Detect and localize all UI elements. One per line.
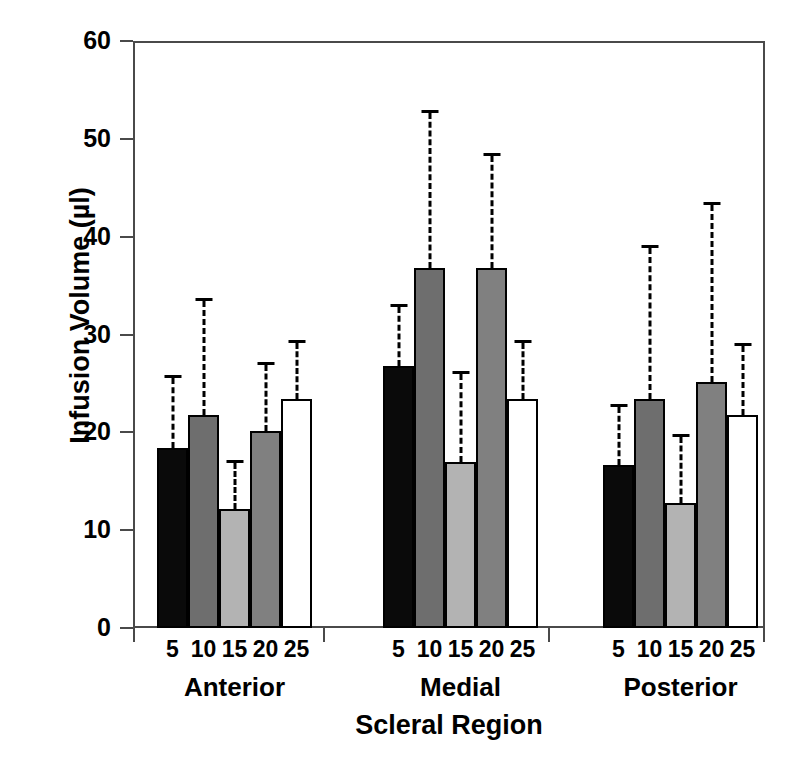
x-axis-tick-label: 25 bbox=[507, 636, 538, 663]
bar-posterior-25[interactable] bbox=[727, 415, 758, 628]
error-bar-cap bbox=[195, 298, 212, 301]
x-axis-tick-label: 20 bbox=[696, 636, 727, 663]
bar-anterior-15[interactable] bbox=[219, 509, 250, 628]
y-axis-tick-mark bbox=[120, 334, 133, 336]
y-axis-tick-mark bbox=[120, 236, 133, 238]
error-bar-cap bbox=[421, 110, 438, 113]
bar-posterior-15[interactable] bbox=[665, 503, 696, 628]
y-axis-tick-label: 60 bbox=[21, 26, 111, 55]
bar-slot bbox=[250, 41, 281, 628]
y-axis-tick-mark bbox=[120, 40, 133, 42]
infusion-volume-bar-chart: Infusion Volume (µl) 0102030405060 51015… bbox=[0, 0, 792, 779]
x-axis-tick-label: 25 bbox=[281, 636, 312, 663]
bar-posterior-5[interactable] bbox=[603, 465, 634, 628]
x-axis-tick-labels: 510152025510152025510152025 bbox=[133, 636, 765, 670]
y-axis-ticks: 0102030405060 bbox=[0, 41, 133, 628]
error-bar-line bbox=[521, 343, 524, 399]
bar-slot bbox=[188, 41, 219, 628]
x-axis-tick-label: 15 bbox=[219, 636, 250, 663]
x-axis-tick-label: 10 bbox=[188, 636, 219, 663]
bar-slot bbox=[634, 41, 665, 628]
error-bar-line bbox=[397, 307, 400, 366]
y-axis-tick-mark bbox=[120, 529, 133, 531]
y-axis-tick-label: 20 bbox=[21, 417, 111, 446]
error-bar-line bbox=[490, 156, 493, 268]
bar-slot bbox=[476, 41, 507, 628]
error-bar-cap bbox=[390, 304, 407, 307]
x-axis-tick-label: 10 bbox=[634, 636, 665, 663]
bar-medial-25[interactable] bbox=[507, 399, 538, 628]
y-axis-tick-label: 10 bbox=[21, 515, 111, 544]
error-bar-line bbox=[428, 113, 431, 268]
bar-medial-20[interactable] bbox=[476, 268, 507, 628]
error-bar-line bbox=[459, 374, 462, 462]
bar-slot bbox=[383, 41, 414, 628]
error-bar-line bbox=[264, 365, 267, 432]
error-bar-cap bbox=[641, 245, 658, 248]
group-label-posterior: Posterior bbox=[563, 672, 792, 703]
bar-anterior-20[interactable] bbox=[250, 431, 281, 628]
y-axis-tick-label: 30 bbox=[21, 320, 111, 349]
x-axis-tick-label: 25 bbox=[727, 636, 758, 663]
x-axis-tick-label: 20 bbox=[476, 636, 507, 663]
bar-slot bbox=[445, 41, 476, 628]
error-bar-line bbox=[202, 301, 205, 414]
bar-group-posterior bbox=[603, 41, 758, 628]
error-bar-cap bbox=[483, 153, 500, 156]
error-bar-line bbox=[648, 248, 651, 399]
plot-area bbox=[133, 41, 765, 628]
group-label-anterior: Anterior bbox=[117, 672, 352, 703]
error-bar-line bbox=[171, 378, 174, 448]
error-bar-cap bbox=[703, 202, 720, 205]
x-axis-tick-label: 15 bbox=[445, 636, 476, 663]
error-bar-cap bbox=[514, 340, 531, 343]
y-axis-tick-label: 0 bbox=[21, 613, 111, 642]
error-bar-cap bbox=[257, 362, 274, 365]
x-axis-tick-label: 20 bbox=[250, 636, 281, 663]
error-bar-cap bbox=[226, 460, 243, 463]
bar-slot bbox=[281, 41, 312, 628]
bar-medial-10[interactable] bbox=[414, 268, 445, 628]
error-bar-cap bbox=[734, 343, 751, 346]
bar-group-anterior bbox=[157, 41, 312, 628]
bar-slot bbox=[219, 41, 250, 628]
y-axis-tick-label: 40 bbox=[21, 222, 111, 251]
y-axis-tick-mark bbox=[120, 431, 133, 433]
bar-slot bbox=[157, 41, 188, 628]
x-axis-group-labels: AnteriorMedialPosterior bbox=[133, 672, 765, 708]
x-axis-tick-label: 5 bbox=[157, 636, 188, 663]
bar-slot bbox=[414, 41, 445, 628]
error-bar-line bbox=[710, 205, 713, 382]
bar-slot bbox=[665, 41, 696, 628]
y-axis-tick-mark bbox=[120, 627, 133, 629]
bar-medial-5[interactable] bbox=[383, 366, 414, 628]
bar-medial-15[interactable] bbox=[445, 462, 476, 628]
x-axis-tick-label: 10 bbox=[414, 636, 445, 663]
x-axis-tick-label: 5 bbox=[383, 636, 414, 663]
bar-posterior-10[interactable] bbox=[634, 399, 665, 628]
bar-slot bbox=[603, 41, 634, 628]
group-label-medial: Medial bbox=[343, 672, 578, 703]
error-bar-line bbox=[741, 346, 744, 414]
y-axis-tick-mark bbox=[120, 138, 133, 140]
bar-slot bbox=[696, 41, 727, 628]
error-bar-line bbox=[233, 463, 236, 509]
bar-anterior-25[interactable] bbox=[281, 399, 312, 628]
bar-group-medial bbox=[383, 41, 538, 628]
bar-slot bbox=[507, 41, 538, 628]
bar-slot bbox=[727, 41, 758, 628]
error-bar-line bbox=[617, 407, 620, 465]
bar-anterior-5[interactable] bbox=[157, 448, 188, 628]
error-bar-line bbox=[295, 343, 298, 399]
bar-anterior-10[interactable] bbox=[188, 415, 219, 628]
bar-posterior-20[interactable] bbox=[696, 382, 727, 628]
y-axis-tick-label: 50 bbox=[21, 124, 111, 153]
error-bar-cap bbox=[288, 340, 305, 343]
error-bar-line bbox=[679, 437, 682, 503]
error-bar-cap bbox=[452, 371, 469, 374]
error-bar-cap bbox=[672, 434, 689, 437]
error-bar-cap bbox=[164, 375, 181, 378]
x-axis-tick-label: 5 bbox=[603, 636, 634, 663]
x-axis-title: Scleral Region bbox=[133, 710, 765, 741]
error-bar-cap bbox=[610, 404, 627, 407]
